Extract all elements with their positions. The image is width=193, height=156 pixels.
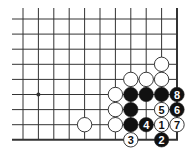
star-points bbox=[36, 93, 40, 97]
white-stone bbox=[108, 118, 122, 132]
white-stone bbox=[154, 57, 168, 71]
white-stone bbox=[124, 72, 138, 86]
black-stone bbox=[124, 87, 138, 101]
move-number: 1 bbox=[159, 119, 165, 131]
black-stone-4: 4 bbox=[139, 118, 153, 132]
move-number: 5 bbox=[159, 104, 165, 116]
black-stone-6: 6 bbox=[170, 102, 184, 116]
white-stone-5: 5 bbox=[154, 102, 168, 116]
white-stone bbox=[139, 72, 153, 86]
move-number: 7 bbox=[174, 119, 180, 131]
white-stone-3: 3 bbox=[124, 133, 138, 147]
white-stone-1: 1 bbox=[154, 118, 168, 132]
black-stone-2: 2 bbox=[154, 133, 168, 147]
move-number: 3 bbox=[128, 134, 134, 146]
white-stone bbox=[108, 102, 122, 116]
black-stone bbox=[154, 87, 168, 101]
white-stone bbox=[77, 118, 91, 132]
black-stone bbox=[124, 118, 138, 132]
hoshi-point bbox=[36, 93, 40, 97]
black-stone bbox=[124, 102, 138, 116]
move-number: 8 bbox=[174, 89, 180, 101]
move-number: 6 bbox=[174, 104, 180, 116]
go-board-diagram: 85641732 bbox=[0, 0, 193, 156]
board-grid bbox=[12, 8, 178, 140]
move-number: 4 bbox=[143, 119, 150, 131]
white-stone bbox=[108, 87, 122, 101]
move-number: 2 bbox=[159, 134, 165, 146]
white-stone-7: 7 bbox=[170, 118, 184, 132]
black-stone-8: 8 bbox=[170, 87, 184, 101]
black-stone bbox=[139, 87, 153, 101]
white-stone bbox=[154, 72, 168, 86]
